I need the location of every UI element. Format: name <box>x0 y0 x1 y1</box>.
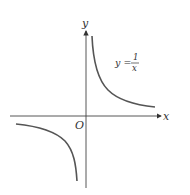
equation-denominator: x <box>132 63 137 73</box>
curve-branch-negative <box>16 124 77 181</box>
equation-numerator: 1 <box>133 52 138 62</box>
equation-label: y = 1 x <box>114 52 139 73</box>
curve-branch-positive <box>92 36 155 107</box>
graph-canvas: x y O y = 1 x <box>0 0 190 195</box>
equation-lhs: y = <box>114 57 131 68</box>
y-axis-label: y <box>81 17 89 30</box>
origin-label: O <box>75 119 84 132</box>
x-axis-label: x <box>163 110 170 123</box>
